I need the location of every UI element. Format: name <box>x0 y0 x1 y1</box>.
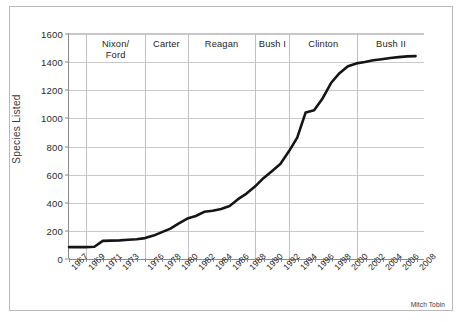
plot-area: 02004006008001000120014001600 1967196919… <box>68 33 424 258</box>
y-tick-label: 600 <box>47 169 63 180</box>
chart-figure: Species Listed Mitch Tobin 0200400600800… <box>0 0 463 322</box>
y-tick-label: 800 <box>47 141 63 152</box>
y-tick-label: 1400 <box>41 57 63 68</box>
y-tick-label: 1600 <box>41 29 63 40</box>
x-tick-mark <box>69 258 70 262</box>
y-axis-label: Species Listed <box>11 94 22 163</box>
species-listed-line <box>69 34 424 258</box>
y-tick-label: 1000 <box>41 113 63 124</box>
y-tick-label: 200 <box>47 225 63 236</box>
credit-attribution: Mitch Tobin <box>411 301 445 308</box>
x-tick-mark <box>145 258 146 262</box>
y-tick-label: 1200 <box>41 85 63 96</box>
y-tick-label: 400 <box>47 197 63 208</box>
y-tick-label: 0 <box>58 254 63 265</box>
